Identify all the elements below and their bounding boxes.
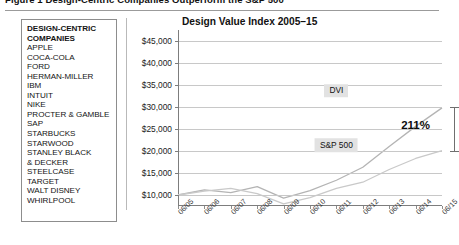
list-item: INTUIT [27,91,116,101]
companies-heading-line2: COMPANIES [27,34,116,44]
list-item: PROCTER & GAMBLE [27,110,116,120]
list-item: STEELCASE [27,167,116,177]
y-tickmark [175,195,179,196]
y-axis-label: $20,000 [142,146,172,156]
gridline [179,41,442,42]
y-tickmark [175,129,179,130]
x-axis-label: 06/15 [440,197,459,216]
chart-title: Design Value Index 2005–15 [182,16,317,27]
y-axis-label: $15,000 [142,168,172,178]
list-item: FORD [27,62,116,72]
gridline [179,85,442,86]
list-item: STANLEY BLACK [27,148,116,158]
y-tickmark [175,85,179,86]
y-axis-label: $30,000 [142,102,172,112]
chart-left-divider [126,18,127,210]
header-divider [5,10,439,11]
y-axis-label: $10,000 [142,190,172,200]
y-tickmark [175,151,179,152]
list-item: HERMAN-MILLER [27,72,116,82]
list-item: IBM [27,81,116,91]
list-item: COCA-COLA [27,53,116,63]
gridline [179,173,442,174]
gridline [179,107,442,108]
y-axis-label: $25,000 [142,124,172,134]
list-item: WHIRLPOOL [27,196,116,206]
y-tickmark [175,63,179,64]
y-tickmark [175,41,179,42]
figure-caption: Figure 1 Design-Centric Companies Outper… [5,0,284,5]
annotation-211-: 211% [401,119,430,131]
list-item: SAP [27,119,116,129]
figure-caption-strip: Figure 1 Design-Centric Companies Outper… [0,0,444,9]
list-item: STARWOOD [27,139,116,149]
gap-bracket [454,107,455,151]
list-item: STARBUCKS [27,129,116,139]
list-item: NIKE [27,100,116,110]
gap-bracket-cap-top [450,107,459,108]
y-axis-label: $35,000 [142,80,172,90]
list-item: TARGET [27,177,116,187]
y-tickmark [175,107,179,108]
y-axis-label: $40,000 [142,58,172,68]
design-centric-companies-panel: DESIGN-CENTRIC COMPANIES APPLE COCA-COLA… [21,19,117,222]
companies-heading-line1: DESIGN-CENTRIC [27,24,116,34]
gap-bracket-cap-bottom [450,151,459,152]
annotation-s-p-500: S&P 500 [315,139,358,153]
gridline [179,63,442,64]
y-axis-label: $45,000 [142,36,172,46]
list-item: WALT DISNEY [27,186,116,196]
plot-area: $10,000$15,000$20,000$25,000$30,000$35,0… [178,30,442,206]
y-tickmark [175,173,179,174]
chart-container: Design Value Index 2005–15 $10,000$15,00… [126,16,442,241]
annotation-dvi: DVI [324,84,348,98]
list-item: & DECKER [27,158,116,168]
gridline [179,195,442,196]
list-item: APPLE [27,43,116,53]
gridline [179,151,442,152]
